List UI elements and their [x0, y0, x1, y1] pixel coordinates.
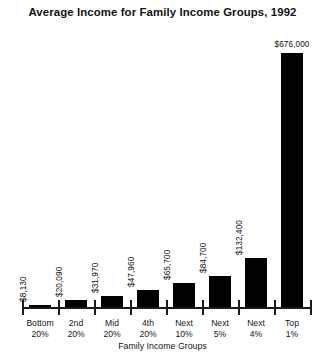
- x-axis-tick: [94, 300, 96, 315]
- x-axis-tick: [238, 300, 240, 315]
- x-axis-label-line2: 20%: [67, 329, 84, 340]
- x-axis-tick: [22, 300, 24, 315]
- bar-top-1: [281, 53, 303, 308]
- bar-next-10: [173, 283, 195, 308]
- x-axis-label-line1: Next: [175, 318, 193, 328]
- x-axis-tick: [274, 300, 276, 315]
- chart-figure: Average Income for Family Income Groups,…: [0, 0, 325, 360]
- x-axis-label-line2: 20%: [103, 329, 120, 340]
- bar-value-label: $31,970: [91, 263, 100, 293]
- x-axis-title: Family Income Groups: [0, 341, 325, 351]
- x-axis-tick: [58, 300, 60, 315]
- x-axis-label-line2: 4%: [247, 329, 265, 340]
- plot-area: $8,130$20,090$31,970$47,960$65,700$84,70…: [22, 30, 310, 308]
- bar-value-label: $676,000: [275, 40, 310, 49]
- x-axis-label: 2nd20%: [67, 318, 84, 339]
- x-axis-label-line2: 20%: [139, 329, 156, 340]
- x-axis-tick: [310, 300, 312, 315]
- x-axis-label-line1: 4th: [142, 318, 154, 328]
- bar-value-label: $20,090: [55, 267, 64, 297]
- bar-value-label: $47,960: [127, 257, 136, 287]
- x-axis-label-line2: 1%: [285, 329, 299, 340]
- bar-value-label: $84,700: [199, 243, 208, 273]
- x-axis-label-line2: 20%: [26, 329, 53, 340]
- x-axis-tick: [166, 300, 168, 315]
- x-axis-label-line1: 2nd: [69, 318, 83, 328]
- x-axis-label-line1: Bottom: [26, 318, 53, 328]
- x-axis-tick: [202, 300, 204, 315]
- bar-next-4: [245, 258, 267, 308]
- x-axis-label: Next4%: [247, 318, 265, 339]
- x-axis-tick: [130, 300, 132, 315]
- x-axis-label: Next5%: [211, 318, 229, 339]
- x-axis-label-line2: 5%: [211, 329, 229, 340]
- x-axis-label-line1: Next: [247, 318, 265, 328]
- x-axis-label-line2: 10%: [175, 329, 193, 340]
- x-axis-label: Next10%: [175, 318, 193, 339]
- x-axis-label-line1: Top: [285, 318, 299, 328]
- bar-value-label: $132,400: [235, 220, 244, 255]
- x-axis-label: 4th20%: [139, 318, 156, 339]
- bar-value-label: $8,130: [19, 276, 28, 302]
- bar-value-label: $65,700: [163, 250, 172, 280]
- x-axis-label-line1: Next: [211, 318, 229, 328]
- bar-4th-20: [137, 290, 159, 308]
- chart-title: Average Income for Family Income Groups,…: [0, 6, 325, 18]
- x-axis-label-line1: Mid: [105, 318, 119, 328]
- x-axis-label: Bottom20%: [26, 318, 53, 339]
- x-axis-label: Top1%: [285, 318, 299, 339]
- x-axis-label: Mid20%: [103, 318, 120, 339]
- bar-next-5: [209, 276, 231, 308]
